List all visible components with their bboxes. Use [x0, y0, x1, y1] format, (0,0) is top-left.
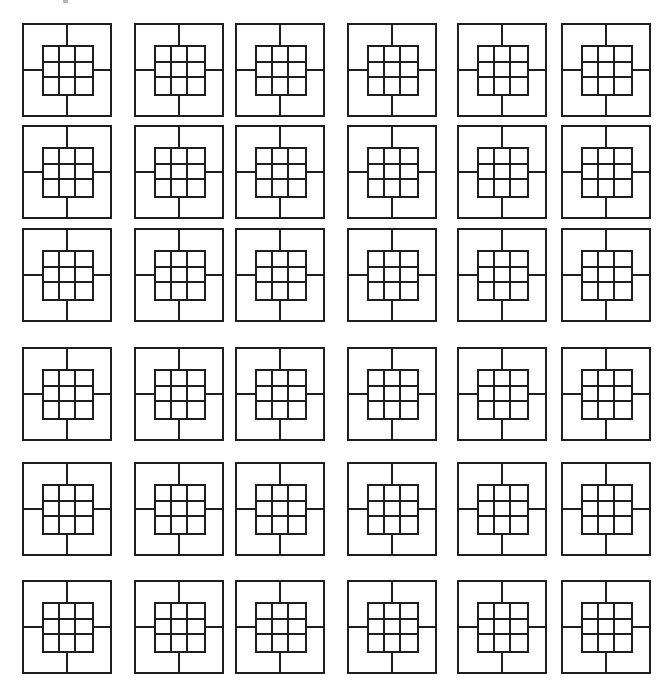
grid-cell: [76, 486, 92, 502]
grid-cell: [615, 371, 631, 387]
grid-cell: [257, 268, 273, 284]
pattern-tile: [22, 347, 112, 441]
connector-line-right: [205, 393, 222, 396]
connector-line-left: [563, 626, 581, 629]
grid-cell: [479, 387, 495, 403]
pattern-tile: [22, 462, 112, 556]
grid-cell: [479, 620, 495, 636]
grid-cell: [583, 180, 599, 196]
grid-cell: [495, 165, 511, 181]
grid-cell: [615, 604, 631, 620]
grid-cell: [511, 165, 527, 181]
grid-cell: [257, 517, 273, 533]
connector-line-left: [136, 274, 154, 277]
grid-cell: [401, 502, 417, 518]
grid-cell: [385, 620, 401, 636]
connector-line-left: [459, 69, 477, 72]
grid-cell: [615, 517, 631, 533]
grid-cell: [188, 47, 204, 63]
grid-cell: [289, 78, 305, 94]
connector-line-top: [279, 349, 282, 369]
grid-cell: [495, 486, 511, 502]
grid-cell: [172, 502, 188, 518]
grid-cell: [583, 149, 599, 165]
grid-cell: [273, 486, 289, 502]
inner-3x3-grid: [367, 484, 419, 535]
grid-cell: [60, 252, 76, 268]
connector-line-bottom: [605, 301, 608, 320]
grid-cell: [60, 604, 76, 620]
grid-cell: [76, 371, 92, 387]
grid-cell: [583, 402, 599, 418]
connector-line-left: [459, 508, 477, 511]
grid-cell: [273, 517, 289, 533]
pattern-tile: [235, 462, 325, 556]
grid-cell: [44, 165, 60, 181]
grid-cell: [60, 78, 76, 94]
grid-cell: [511, 402, 527, 418]
connector-line-bottom: [279, 96, 282, 115]
pattern-tile: [22, 125, 112, 219]
connector-line-left: [237, 171, 255, 174]
grid-cell: [583, 604, 599, 620]
connector-line-top: [178, 230, 181, 250]
inner-3x3-grid: [255, 250, 307, 301]
grid-cell: [76, 402, 92, 418]
grid-cell: [583, 486, 599, 502]
inner-3x3-grid: [477, 147, 529, 198]
grid-cell: [60, 283, 76, 299]
grid-cell: [599, 517, 615, 533]
grid-cell: [369, 252, 385, 268]
grid-cell: [76, 502, 92, 518]
grid-cell: [401, 252, 417, 268]
grid-cell: [495, 180, 511, 196]
inner-3x3-grid: [255, 484, 307, 535]
grid-cell: [369, 387, 385, 403]
connector-line-right: [306, 171, 323, 174]
grid-cell: [401, 165, 417, 181]
connector-line-top: [501, 582, 504, 602]
connector-line-top: [66, 25, 69, 45]
grid-cell: [385, 165, 401, 181]
connector-line-right: [93, 69, 110, 72]
connector-line-right: [306, 274, 323, 277]
grid-cell: [511, 502, 527, 518]
grid-cell: [495, 402, 511, 418]
grid-cell: [172, 371, 188, 387]
grid-cell: [172, 149, 188, 165]
grid-cell: [401, 180, 417, 196]
grid-cell: [385, 502, 401, 518]
grid-cell: [172, 517, 188, 533]
connector-line-left: [349, 171, 367, 174]
connector-line-top: [605, 582, 608, 602]
grid-cell: [615, 180, 631, 196]
connector-line-right: [632, 69, 649, 72]
grid-cell: [273, 620, 289, 636]
grid-cell: [156, 502, 172, 518]
grid-cell: [188, 486, 204, 502]
grid-cell: [479, 371, 495, 387]
grid-cell: [599, 165, 615, 181]
connector-line-left: [136, 69, 154, 72]
grid-cell: [369, 486, 385, 502]
inner-3x3-grid: [154, 484, 206, 535]
pattern-tile: [235, 23, 325, 117]
connector-line-right: [418, 171, 435, 174]
connector-line-top: [391, 230, 394, 250]
connector-line-bottom: [501, 535, 504, 554]
connector-line-left: [136, 171, 154, 174]
pattern-tile: [235, 228, 325, 322]
grid-cell: [385, 517, 401, 533]
connector-line-top: [391, 127, 394, 147]
grid-cell: [156, 371, 172, 387]
connector-line-left: [136, 508, 154, 511]
grid-cell: [172, 180, 188, 196]
grid-cell: [369, 635, 385, 651]
connector-line-bottom: [178, 653, 181, 672]
grid-cell: [385, 402, 401, 418]
grid-cell: [479, 47, 495, 63]
connector-line-bottom: [605, 653, 608, 672]
grid-cell: [583, 78, 599, 94]
grid-cell: [76, 635, 92, 651]
grid-cell: [401, 371, 417, 387]
